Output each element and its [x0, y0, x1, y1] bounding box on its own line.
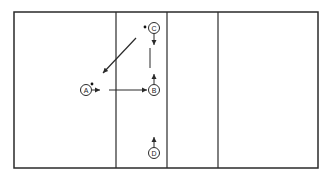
player-d-label: D	[151, 150, 156, 157]
player-a: A	[81, 83, 94, 96]
player-c: C	[144, 23, 160, 34]
court-boundary	[14, 12, 318, 168]
player-b-label: B	[152, 87, 157, 94]
ball-icon	[91, 83, 94, 86]
player-d: D	[149, 148, 160, 159]
court-diagram: A B C D	[0, 0, 332, 178]
arrow-c-diagonal	[103, 38, 136, 73]
player-b: B	[149, 85, 160, 96]
player-c-label: C	[151, 25, 156, 32]
player-a-label: A	[84, 87, 89, 94]
ball-icon	[144, 26, 147, 29]
